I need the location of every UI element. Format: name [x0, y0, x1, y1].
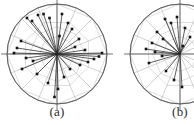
variable-marker-11 [173, 79, 176, 82]
correlation-circle-plot-a [0, 0, 117, 110]
variable-marker-4 [162, 38, 165, 41]
vector-group [13, 13, 104, 99]
variable-marker-8 [58, 35, 61, 38]
radial-spoke-14 [22, 19, 57, 54]
variable-marker-1 [170, 22, 173, 25]
variable-marker-6 [67, 22, 70, 25]
variable-marker-27 [78, 38, 81, 41]
variable-marker-0 [164, 18, 167, 21]
variable-marker-14 [21, 68, 24, 71]
variable-marker-13 [32, 60, 35, 63]
variable-marker-15 [182, 45, 185, 48]
variable-marker-4 [48, 17, 51, 20]
variable-marker-19 [69, 68, 72, 71]
variable-marker-22 [93, 58, 96, 61]
variable-marker-14 [189, 36, 192, 39]
variable-marker-5 [151, 42, 154, 45]
variable-marker-2 [37, 14, 40, 17]
variable-marker-6 [145, 48, 148, 51]
radial-spoke-5 [180, 54, 194, 73]
variable-marker-10 [16, 47, 19, 50]
correlation-circle-plot-b [120, 0, 194, 110]
variable-marker-23 [98, 55, 101, 58]
variable-marker-25 [84, 49, 87, 52]
plot-geometry [124, 0, 194, 110]
radial-spoke-2 [57, 19, 92, 54]
variable-marker-2 [176, 16, 179, 19]
variable-marker-18 [63, 76, 66, 79]
variable-marker-7 [154, 51, 157, 54]
variable-marker-9 [20, 40, 23, 43]
variable-marker-20 [79, 64, 82, 67]
variable-marker-9 [148, 62, 151, 65]
variable-marker-15 [36, 73, 39, 76]
variable-marker-12 [25, 57, 28, 60]
chart-panel-b: (b) [120, 0, 194, 125]
variable-marker-13 [184, 27, 187, 30]
panel-a-caption: (a) [0, 103, 117, 121]
chart-panel-a: (a) [0, 0, 117, 125]
variable-marker-1 [31, 20, 34, 23]
variable-marker-26 [74, 46, 77, 49]
variable-marker-24 [101, 52, 104, 55]
variable-marker-8 [161, 55, 164, 58]
variable-marker-21 [87, 61, 90, 64]
variable-marker-5 [61, 13, 64, 16]
variable-marker-0 [26, 17, 29, 20]
figure-root: (a) (b) [0, 0, 194, 125]
variable-marker-7 [71, 28, 74, 31]
variable-marker-28 [53, 96, 56, 99]
variable-marker-17 [57, 88, 60, 91]
panel-b-caption: (b) [120, 103, 194, 121]
variable-marker-3 [156, 31, 159, 34]
variable-marker-12 [181, 86, 184, 89]
variable-marker-11 [13, 52, 16, 55]
variable-marker-16 [47, 82, 50, 85]
variable-marker-10 [165, 70, 168, 73]
variable-marker-3 [42, 13, 45, 16]
